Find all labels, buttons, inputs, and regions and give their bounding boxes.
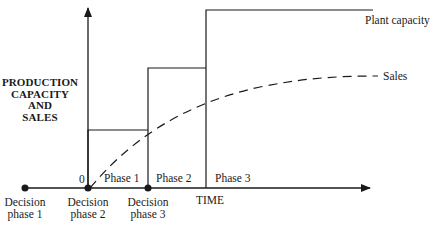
y-axis-label-line-1: PRODUCTION	[2, 77, 78, 89]
phase-2-label: Phase 2	[156, 172, 191, 184]
decision-phase-2-line-2: phase 2	[65, 208, 111, 220]
origin-label: 0	[79, 173, 85, 185]
plant-capacity-line	[88, 10, 373, 188]
phase-1-label: Phase 1	[104, 172, 139, 184]
x-axis-label: TIME	[196, 194, 224, 206]
y-axis-label-line-4: SALES	[2, 112, 78, 124]
plant-capacity-label: Plant capacity	[365, 14, 430, 26]
y-axis-label: PRODUCTION CAPACITY AND SALES	[2, 77, 78, 123]
y-axis-label-line-3: AND	[2, 100, 78, 112]
decision-phase-1-line-1: Decision	[2, 196, 48, 208]
sales-label: Sales	[383, 70, 407, 82]
decision-phase-1-line-2: phase 1	[2, 208, 48, 220]
decision-phase-3-line-1: Decision	[125, 196, 171, 208]
decision-point-2-dot	[85, 185, 92, 192]
decision-phase-2-line-1: Decision	[65, 196, 111, 208]
decision-phase-3-line-2: phase 3	[125, 208, 171, 220]
decision-point-3-dot	[145, 185, 152, 192]
decision-phase-1-label: Decision phase 1	[2, 196, 48, 220]
decision-phase-3-label: Decision phase 3	[125, 196, 171, 220]
phase-3-label: Phase 3	[215, 172, 250, 184]
decision-point-1-dot	[22, 185, 29, 192]
decision-phase-2-label: Decision phase 2	[65, 196, 111, 220]
